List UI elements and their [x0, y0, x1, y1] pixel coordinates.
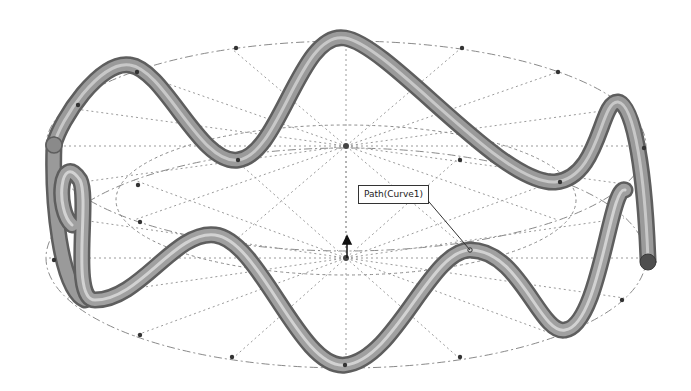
- swept-tube[interactable]: [46, 38, 656, 366]
- path-callout-label[interactable]: Path(Curve1): [358, 185, 429, 204]
- model-view[interactable]: [0, 0, 691, 391]
- graphics-viewport[interactable]: [0, 0, 691, 391]
- callout-leader: [422, 194, 472, 252]
